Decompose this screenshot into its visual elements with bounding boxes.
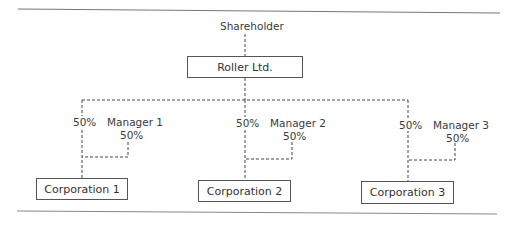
manager-3-label: Manager 3 (433, 119, 489, 131)
manager-1-label: Manager 1 (107, 116, 163, 128)
manager-2-share: 50% (283, 130, 306, 142)
corporation-1-label: Corporation 1 (44, 183, 119, 196)
branch-1-parent-share: 50% (72, 116, 97, 128)
parent-company-label: Roller Ltd. (217, 61, 273, 74)
manager-1-connector (82, 142, 128, 157)
parent-company-box: Roller Ltd. (187, 56, 303, 78)
corporation-2-label: Corporation 2 (207, 185, 282, 198)
manager-3-connector (408, 143, 455, 160)
top-rule (18, 9, 500, 13)
corporation-3-box: Corporation 3 (361, 181, 454, 204)
branch-2-parent-share: 50% (235, 117, 260, 129)
manager-3-share: 50% (446, 132, 469, 144)
corporation-1-box: Corporation 1 (36, 178, 128, 200)
manager-2-label: Manager 2 (270, 117, 326, 129)
bottom-rule (17, 211, 497, 214)
shareholder-label: Shareholder (220, 20, 284, 32)
branch-3-parent-share: 50% (398, 119, 423, 131)
manager-2-connector (245, 142, 292, 159)
corporation-3-label: Corporation 3 (370, 186, 445, 199)
manager-1-share: 50% (120, 129, 143, 141)
corporation-2-box: Corporation 2 (198, 180, 291, 202)
